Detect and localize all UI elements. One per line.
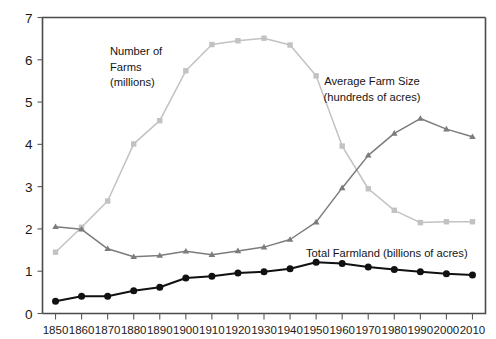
x-axis-tick-label: 1850 — [43, 324, 69, 336]
x-axis-tick-label: 1940 — [277, 324, 303, 336]
annotation-line: Average Farm Size — [324, 75, 420, 87]
data-point-marker — [105, 198, 110, 203]
data-point-marker — [392, 208, 397, 213]
data-point-marker — [366, 186, 371, 191]
x-axis-tick-label: 1980 — [381, 324, 407, 336]
x-axis-tick-label: 1860 — [69, 324, 95, 336]
annotation-line: (hundreds of acres) — [323, 91, 420, 103]
x-axis-tick-label: 1920 — [225, 324, 251, 336]
data-point-marker — [183, 68, 188, 73]
y-axis-tick-label: 3 — [25, 180, 33, 195]
data-point-marker — [234, 269, 241, 276]
x-axis-tick-label: 1900 — [173, 324, 199, 336]
x-axis-tick-label: 1970 — [355, 324, 381, 336]
series-total-farmland — [52, 259, 476, 305]
data-point-marker — [417, 115, 424, 121]
data-point-marker — [156, 284, 163, 291]
chart-figure: 0123456718501860187018801890190019101920… — [0, 0, 496, 339]
data-point-marker — [287, 265, 294, 272]
y-axis-tick-label: 0 — [25, 307, 33, 322]
data-point-marker — [313, 259, 320, 266]
x-axis-tick-label: 1870 — [95, 324, 121, 336]
x-axis-tick-label: 1910 — [199, 324, 225, 336]
data-point-marker — [443, 270, 450, 277]
data-point-marker — [182, 274, 189, 281]
data-point-marker — [391, 266, 398, 273]
data-point-marker — [313, 73, 318, 78]
data-point-marker — [104, 293, 111, 300]
x-axis-tick-label: 2000 — [434, 324, 460, 336]
line-chart-canvas: 0123456718501860187018801890190019101920… — [0, 0, 496, 339]
data-point-marker — [183, 248, 190, 254]
data-point-marker — [261, 268, 268, 275]
data-point-marker — [470, 219, 475, 224]
y-axis-tick-label: 7 — [25, 11, 33, 26]
x-axis-tick-label: 1930 — [251, 324, 277, 336]
x-axis-tick-label: 1960 — [329, 324, 355, 336]
data-point-marker — [157, 118, 162, 123]
data-point-marker — [208, 273, 215, 280]
data-point-marker — [261, 36, 266, 41]
y-axis-tick-label: 2 — [25, 222, 33, 237]
data-point-marker — [444, 219, 449, 224]
data-point-marker — [52, 223, 59, 229]
x-axis-tick-label: 1950 — [303, 324, 329, 336]
annotation-farm-size: Average Farm Size(hundreds of acres) — [323, 75, 420, 103]
x-axis-tick-label: 1890 — [147, 324, 173, 336]
series-average-farm-size — [52, 115, 476, 259]
y-axis-tick-label: 4 — [25, 137, 33, 152]
data-point-marker — [209, 42, 214, 47]
data-point-marker — [418, 220, 423, 225]
annotation-line: Farms — [110, 61, 142, 73]
data-point-marker — [339, 143, 344, 148]
annotation-farmland: Total Farmland (billions of acres) — [306, 247, 468, 259]
y-axis-tick-label: 6 — [25, 53, 33, 68]
series-line — [56, 119, 473, 257]
data-point-marker — [417, 268, 424, 275]
data-point-marker — [78, 293, 85, 300]
annotation-line: (millions) — [110, 76, 155, 88]
data-point-marker — [287, 236, 294, 242]
x-axis-tick-label: 1880 — [121, 324, 147, 336]
annotation-farms: Number ofFarms(millions) — [110, 45, 163, 88]
annotation-line: Number of — [110, 45, 163, 57]
data-point-marker — [131, 141, 136, 146]
data-point-marker — [339, 260, 346, 267]
x-axis-tick-label: 2010 — [460, 324, 486, 336]
y-axis-tick-label: 5 — [25, 95, 33, 110]
data-point-marker — [365, 263, 372, 270]
x-axis-tick-label: 1990 — [408, 324, 434, 336]
data-point-marker — [469, 272, 476, 279]
data-point-marker — [287, 42, 292, 47]
data-point-marker — [52, 298, 59, 305]
data-point-marker — [235, 38, 240, 43]
data-point-marker — [53, 249, 58, 254]
annotation-line: Total Farmland (billions of acres) — [306, 247, 468, 259]
y-axis-tick-label: 1 — [25, 264, 33, 279]
data-point-marker — [130, 287, 137, 294]
